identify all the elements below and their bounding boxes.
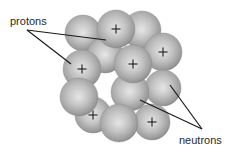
protons-label: protons [10,15,47,27]
neutrons-pointer-line [170,85,202,129]
neutrons-label: neutrons [179,134,222,146]
proton-sphere [97,10,135,48]
neutron-sphere [145,70,181,106]
proton-sphere [114,45,152,83]
nucleus-cluster [60,10,182,142]
proton-sphere [134,104,170,140]
neutron-sphere [100,104,138,142]
neutron-sphere [60,78,98,116]
